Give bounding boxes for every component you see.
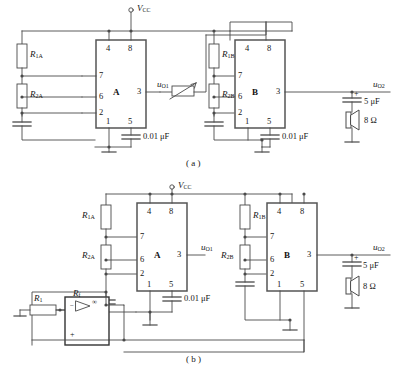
chip-a-pin2-b: 2	[140, 269, 144, 278]
caption-b: ( b )	[186, 355, 201, 364]
resistor-label-r2a-a: R2A	[30, 90, 43, 99]
chip-a-pin7-a: 7	[99, 71, 103, 80]
chip-a-pin1-a: 1	[106, 117, 110, 126]
chip-a-label-b: A	[154, 251, 161, 260]
chip-b-pin1-b: 1	[277, 280, 281, 289]
resistor-label-r1-b: R1	[34, 294, 43, 303]
node-rail-r1b-b	[243, 192, 246, 195]
chip-b-label-b: B	[284, 251, 290, 260]
chip-b-pin8-b: 8	[300, 207, 304, 216]
resistor-r1a-body	[17, 44, 27, 68]
chip-a-pin4-a: 4	[106, 44, 110, 53]
speaker-cone-b	[351, 276, 359, 296]
capacitor-polarity-b: +	[354, 254, 359, 262]
speaker-label-b: 8 Ω	[363, 282, 376, 291]
chip-b-body-b	[267, 203, 317, 291]
vcc-label-b: VCC	[178, 181, 192, 190]
chip-b-pin3-a: 3	[276, 87, 280, 96]
resistor-label-r2b-a: R2B	[222, 90, 235, 99]
chip-b-pin4-a: 4	[245, 44, 249, 53]
circuit-schematic-svg	[0, 0, 404, 373]
resistor-r1-body	[30, 305, 56, 315]
figure-root: VCC R1A R2A R1B R2B A B 4 8 7 6 2 3 1 5 …	[0, 0, 404, 373]
capacitor-label-a-001-b: 0.01 μF	[184, 294, 210, 303]
resistor-label-r1a-b: R1A	[82, 211, 95, 220]
chip-b-pin5-b: 5	[300, 280, 304, 289]
chip-b-pin5-a: 5	[267, 117, 271, 126]
capacitor-label-b-001-a: 0.01 μF	[282, 132, 308, 141]
speaker-cone-a	[351, 110, 359, 130]
chip-a-body-b	[137, 203, 187, 291]
speaker-label-a: 8 Ω	[364, 116, 377, 125]
chip-b-pin1-a: 1	[245, 117, 249, 126]
bottom-return-wire	[124, 340, 304, 352]
chip-a-pin5-b: 5	[169, 280, 173, 289]
chip-b-pin2-b: 2	[270, 269, 274, 278]
capacitor-label-a-001-a: 0.01 μF	[143, 132, 169, 141]
speaker-box-b	[346, 278, 351, 294]
resistor-label-r1b-a: R1B	[222, 50, 235, 59]
chip-a-pin1-b: 1	[147, 280, 151, 289]
node-rail-pin4-b	[148, 192, 151, 195]
resistor-r2a-body-b	[101, 245, 111, 269]
chip-b-pin3-b: 3	[307, 250, 311, 259]
node-rail-pin4-a	[107, 29, 110, 32]
caption-a: ( a )	[186, 159, 201, 168]
chip-a-pin8-a: 8	[128, 44, 132, 53]
chip-a-pin5-a: 5	[128, 117, 132, 126]
chip-a-pin8-b: 8	[169, 207, 173, 216]
speaker-box-a	[346, 112, 351, 128]
output-label-uo2-b: uO2	[373, 243, 385, 252]
output-label-uo1-a: uO1	[157, 80, 169, 89]
chip-a-pin7-b: 7	[140, 232, 144, 241]
chip-b-body-a	[235, 40, 285, 128]
chip-a-pin3-a: 3	[137, 87, 141, 96]
capacitor-label-out-a: 5 μF	[364, 97, 380, 106]
vcc-terminal-a	[129, 8, 133, 12]
opamp-gain-label: ∞	[92, 299, 97, 306]
opamp-noninverting-label: +	[70, 331, 75, 339]
resistor-r1b-body-a	[209, 44, 219, 68]
resistor-r1a-body-b	[101, 205, 111, 229]
node-rail-r1b-a	[212, 29, 215, 32]
chip-a-pin6-b: 6	[140, 255, 144, 264]
chip-b-pin8-a: 8	[267, 44, 271, 53]
output-label-uo2-a: uO2	[373, 80, 385, 89]
resistor-r1b-body-b	[240, 205, 250, 229]
resistor-label-rf-b: Rf	[73, 289, 81, 298]
chip-b-pin7-a: 7	[238, 71, 242, 80]
chip-b-pin2-a: 2	[238, 108, 242, 117]
uo1-bridge-top	[206, 22, 266, 35]
resistor-label-r1b-b: R1B	[253, 211, 266, 220]
chip-a-pin3-b: 3	[177, 250, 181, 259]
resistor-label-r2a-b: R2A	[82, 251, 95, 260]
chip-a-label-a: A	[113, 88, 120, 97]
capacitor-polarity-a: +	[354, 90, 359, 98]
chip-b-pin6-b: 6	[270, 255, 274, 264]
capacitor-label-out-b: 5 μF	[363, 261, 379, 270]
chip-a-pin6-a: 6	[99, 92, 103, 101]
resistor-label-r2b-b: R2B	[221, 251, 234, 260]
chip-b-label-a: B	[252, 88, 258, 97]
node-rail-pin8-b	[170, 192, 173, 195]
vcc-label-a: VCC	[137, 4, 151, 13]
vcc-terminal-b	[170, 185, 174, 189]
chip-b-pin4-b: 4	[277, 207, 281, 216]
chip-a-body	[96, 40, 146, 128]
node-rail-chipb-pin4-b	[278, 192, 281, 195]
output-label-uo1-b: uO1	[201, 243, 213, 252]
resistor-r2b-body-b	[240, 245, 250, 269]
node-rail-pin8-a	[129, 29, 132, 32]
chip-b-pin6-a: 6	[238, 92, 242, 101]
opamp-inverting-label: −	[70, 303, 74, 310]
chip-a-pin2-a: 2	[99, 108, 103, 117]
chip-a-pin4-b: 4	[147, 207, 151, 216]
node-rail-chipb-pin8-b	[302, 192, 305, 195]
cap-a-ground-wire	[22, 126, 95, 140]
supply-rail-a-bridge	[230, 22, 292, 31]
chip-b-pin7-b: 7	[270, 232, 274, 241]
resistor-label-r1a-a: R1A	[30, 50, 43, 59]
